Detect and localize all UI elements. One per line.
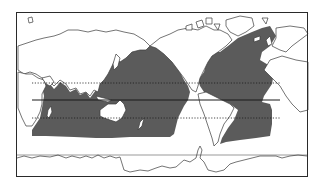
antarctica bbox=[17, 146, 307, 172]
world-map bbox=[0, 0, 324, 190]
antarctic-coastline bbox=[17, 146, 307, 172]
europe bbox=[272, 26, 308, 52]
